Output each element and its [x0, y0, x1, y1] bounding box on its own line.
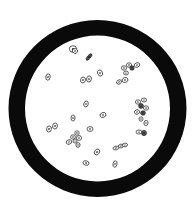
cell: [141, 98, 146, 102]
cell-nucleus: [76, 132, 77, 133]
cell-nucleus: [74, 140, 75, 141]
cell: [139, 104, 144, 109]
cell-nucleus: [138, 131, 140, 132]
cell-nucleus: [143, 99, 145, 100]
cell: [144, 120, 149, 126]
cell: [75, 131, 79, 135]
cell: [71, 115, 75, 121]
cell-nucleus: [140, 118, 141, 119]
cell: [87, 127, 93, 132]
cell-nucleus: [72, 117, 73, 119]
cell: [73, 139, 77, 143]
cell-nucleus: [131, 67, 132, 68]
cell: [136, 130, 142, 134]
cell-nucleus: [145, 107, 147, 108]
cell: [122, 143, 128, 147]
cell: [71, 135, 76, 139]
cell: [139, 117, 143, 121]
cell-nucleus: [89, 128, 91, 129]
cell-nucleus: [128, 64, 130, 65]
microscope-field: [0, 0, 193, 223]
cell: [124, 71, 129, 75]
cell: [76, 136, 81, 141]
cell: [142, 130, 147, 135]
cell: [143, 106, 148, 110]
cell-nucleus: [140, 105, 141, 106]
cell-nucleus: [72, 136, 73, 137]
cell-nucleus: [137, 101, 139, 102]
cell-nucleus: [78, 137, 80, 138]
cell-nucleus: [125, 72, 126, 73]
cell-nucleus: [142, 112, 143, 113]
cell: [141, 111, 146, 115]
cell: [130, 66, 134, 70]
cell: [121, 66, 126, 70]
cell-nucleus: [123, 67, 125, 68]
cell-nucleus: [143, 132, 144, 134]
